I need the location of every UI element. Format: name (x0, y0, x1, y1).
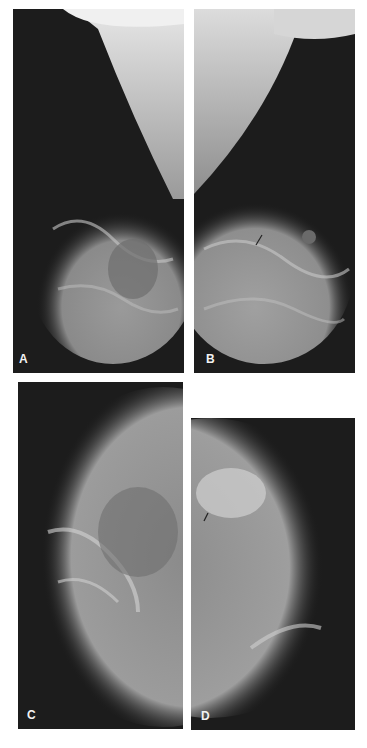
panel-label-c: C (27, 708, 36, 722)
mammogram-image-b (194, 9, 355, 373)
panel-c-mammogram: C (18, 382, 183, 729)
panel-d-mammogram: D (191, 418, 355, 730)
mammogram-image-c (18, 382, 183, 729)
panel-label-b: B (206, 352, 215, 366)
panel-b-mammogram: B (194, 9, 355, 373)
panel-a-mammogram: A (13, 9, 184, 373)
mammogram-image-d (191, 418, 355, 730)
mammogram-image-a (13, 9, 184, 373)
panel-label-a: A (19, 352, 28, 366)
panel-label-d: D (201, 709, 210, 723)
